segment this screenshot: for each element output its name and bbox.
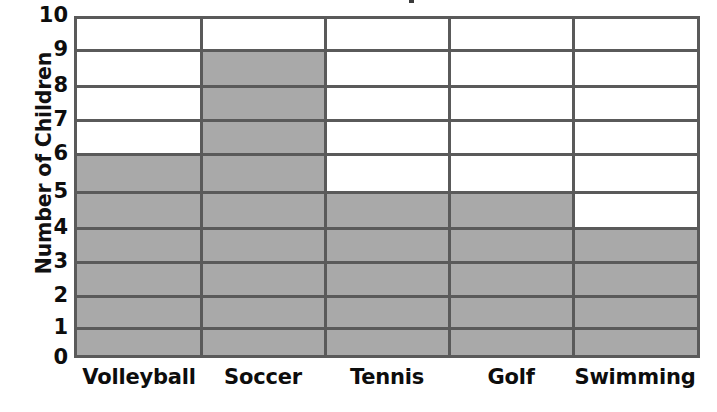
x-axis-tick-labels: VolleyballSoccerTennisGolfSwimming — [74, 362, 700, 396]
y-tick-label: 10 — [24, 5, 68, 27]
y-tick-label: 2 — [24, 285, 68, 307]
y-tick-label: 4 — [24, 217, 68, 239]
gridline — [77, 85, 697, 88]
y-tick-label: 1 — [24, 317, 68, 339]
y-tick-label: 7 — [24, 109, 68, 131]
gridline — [77, 227, 697, 230]
column-divider — [448, 19, 451, 355]
y-tick-label: 9 — [24, 39, 68, 61]
column-divider — [200, 19, 203, 355]
gridline — [77, 153, 697, 156]
y-tick-label: 0 — [24, 347, 68, 369]
gridline — [77, 261, 697, 264]
bar — [449, 192, 573, 355]
bar — [201, 50, 325, 355]
cropped-title-remnant — [409, 0, 414, 3]
bar — [573, 228, 697, 355]
y-tick-label: 5 — [24, 181, 68, 203]
bar — [325, 192, 449, 355]
plot-area — [74, 16, 700, 358]
y-tick-label: 8 — [24, 75, 68, 97]
x-tick-label: Golf — [449, 362, 573, 392]
x-tick-label: Volleyball — [77, 362, 201, 392]
gridline — [77, 119, 697, 122]
x-tick-label: Soccer — [201, 362, 325, 392]
column-divider — [324, 19, 327, 355]
y-axis-tick-labels: 109876543210 — [24, 0, 68, 412]
gridline — [77, 49, 697, 52]
gridline — [77, 191, 697, 194]
bar — [77, 154, 201, 355]
gridline — [77, 295, 697, 298]
y-tick-label: 6 — [24, 143, 68, 165]
x-tick-label: Swimming — [573, 362, 697, 392]
x-tick-label: Tennis — [325, 362, 449, 392]
column-divider — [572, 19, 575, 355]
gridline — [77, 327, 697, 330]
bar-chart: Number of Children 109876543210 Volleyba… — [0, 0, 717, 412]
plot-inner — [77, 19, 697, 355]
y-tick-label: 3 — [24, 251, 68, 273]
